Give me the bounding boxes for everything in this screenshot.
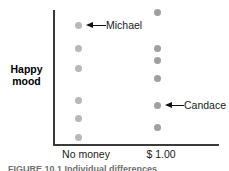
x-tick-label-one-dollar: $ 1.00 xyxy=(133,148,189,160)
x-tick-label-no-money: No money xyxy=(58,148,114,160)
data-point xyxy=(154,75,161,82)
data-point xyxy=(75,134,82,141)
x-axis-line xyxy=(53,144,219,146)
figure-caption: FIGURE 10.1 Individual differences xyxy=(8,164,157,171)
data-point xyxy=(75,115,82,122)
data-point xyxy=(154,57,161,64)
data-point xyxy=(75,65,82,72)
data-point xyxy=(154,45,161,52)
candace-arrow-line xyxy=(171,105,184,106)
candace-annotation-label: Candace xyxy=(184,99,226,111)
data-point xyxy=(75,22,82,29)
y-axis-label-line-1: Happy xyxy=(2,63,51,75)
y-axis-label: Happy mood xyxy=(2,63,51,87)
y-axis-label-line-2: mood xyxy=(2,75,51,87)
data-point xyxy=(75,45,82,52)
data-point xyxy=(154,9,161,16)
michael-annotation-label: Michael xyxy=(106,19,142,31)
data-point xyxy=(75,97,82,104)
michael-arrow-line xyxy=(92,25,106,26)
y-axis-line xyxy=(53,10,55,146)
data-point xyxy=(154,124,161,131)
figure-container: Happy mood No money $ 1.00 Michael Canda… xyxy=(0,0,229,171)
data-point xyxy=(154,102,161,109)
